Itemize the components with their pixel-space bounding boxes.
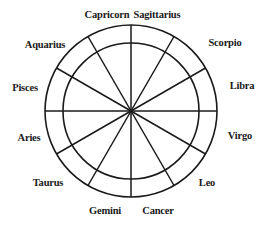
spokes — [45, 25, 217, 197]
sign-label-sagittarius: Sagittarius — [134, 9, 181, 20]
sign-label-aquarius: Aquarius — [25, 39, 65, 50]
sign-label-aries: Aries — [18, 132, 41, 143]
sign-label-scorpio: Scorpio — [208, 37, 241, 48]
sign-label-taurus: Taurus — [33, 177, 64, 188]
sign-label-virgo: Virgo — [228, 130, 252, 141]
sign-label-gemini: Gemini — [89, 205, 121, 216]
sign-label-cancer: Cancer — [142, 205, 173, 216]
sign-label-capricorn: Capricorn — [85, 9, 130, 20]
sign-label-leo: Leo — [199, 177, 215, 188]
zodiac-wheel — [0, 0, 260, 225]
sign-label-pisces: Pisces — [12, 82, 38, 93]
sign-label-libra: Libra — [230, 80, 255, 91]
